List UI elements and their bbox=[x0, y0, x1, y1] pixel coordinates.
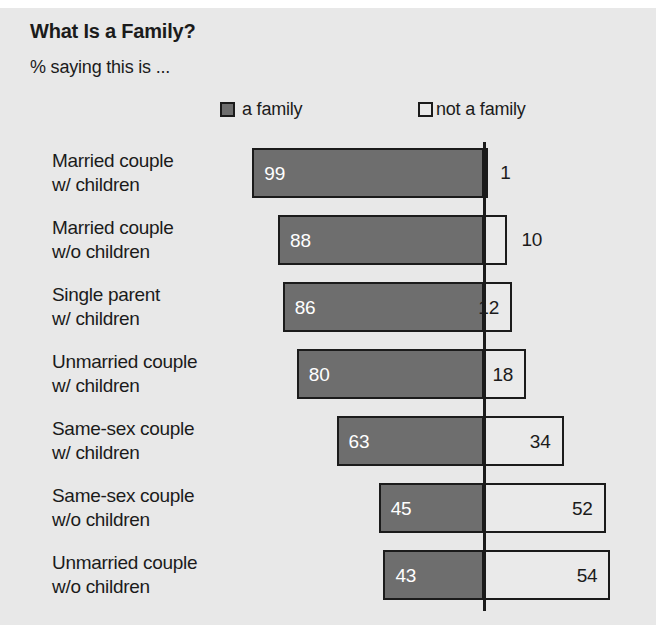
bar-value-a-family: 45 bbox=[381, 499, 412, 518]
bar-value-not-a-family: 18 bbox=[492, 365, 524, 384]
row-label: Unmarried couplew/ children bbox=[52, 350, 197, 398]
row-label-line2: w/o children bbox=[52, 575, 197, 599]
row-label: Married couplew/ children bbox=[52, 149, 173, 197]
row-label: Married couplew/o children bbox=[52, 216, 173, 264]
bar-not-a-family: 12 bbox=[484, 282, 512, 332]
bar-value-not-a-family: 52 bbox=[572, 499, 604, 518]
row-label-line1: Married couple bbox=[52, 149, 173, 173]
chart-page: What Is a Family? % saying this is ... a… bbox=[0, 0, 656, 625]
row-label-line1: Married couple bbox=[52, 216, 173, 240]
bar-chart-plot: Married couplew/ children991Married coup… bbox=[0, 0, 656, 625]
bar-value-a-family: 43 bbox=[385, 566, 416, 585]
bar-value-a-family: 88 bbox=[280, 231, 311, 250]
row-label-line2: w/ children bbox=[52, 173, 173, 197]
bar-value-not-a-family: 1 bbox=[500, 163, 510, 182]
row-label-line2: w/ children bbox=[52, 307, 160, 331]
bar-not-a-family: 18 bbox=[484, 349, 526, 399]
bar-value-a-family: 63 bbox=[339, 432, 370, 451]
row-label-line1: Single parent bbox=[52, 283, 160, 307]
row-label: Unmarried couplew/o children bbox=[52, 551, 197, 599]
bar-a-family: 45 bbox=[379, 483, 484, 533]
bar-a-family: 80 bbox=[297, 349, 484, 399]
bar-a-family: 99 bbox=[252, 148, 484, 198]
bar-a-family: 88 bbox=[278, 215, 484, 265]
row-label-line2: w/o children bbox=[52, 240, 173, 264]
bar-value-not-a-family: 34 bbox=[530, 432, 562, 451]
bar-a-family: 63 bbox=[337, 416, 484, 466]
row-label: Single parentw/ children bbox=[52, 283, 160, 331]
bar-not-a-family: 52 bbox=[484, 483, 606, 533]
bar-value-a-family: 99 bbox=[254, 164, 285, 183]
bar-value-a-family: 86 bbox=[285, 298, 316, 317]
bar-not-a-family bbox=[484, 215, 507, 265]
bar-a-family: 43 bbox=[383, 550, 484, 600]
row-label-line1: Same-sex couple bbox=[52, 417, 194, 441]
row-label-line2: w/ children bbox=[52, 374, 197, 398]
bar-not-a-family: 34 bbox=[484, 416, 564, 466]
row-label-line1: Unmarried couple bbox=[52, 350, 197, 374]
row-label-line1: Unmarried couple bbox=[52, 551, 197, 575]
bar-not-a-family: 54 bbox=[484, 550, 610, 600]
row-label-line2: w/ children bbox=[52, 441, 194, 465]
bar-value-a-family: 80 bbox=[299, 365, 330, 384]
bar-value-not-a-family: 10 bbox=[521, 230, 542, 249]
row-label-line1: Same-sex couple bbox=[52, 484, 194, 508]
bar-a-family: 86 bbox=[283, 282, 484, 332]
bar-value-not-a-family: 54 bbox=[577, 566, 609, 585]
row-label: Same-sex couplew/ children bbox=[52, 417, 194, 465]
row-label: Same-sex couplew/o children bbox=[52, 484, 194, 532]
row-label-line2: w/o children bbox=[52, 508, 194, 532]
center-axis-line bbox=[483, 142, 486, 611]
